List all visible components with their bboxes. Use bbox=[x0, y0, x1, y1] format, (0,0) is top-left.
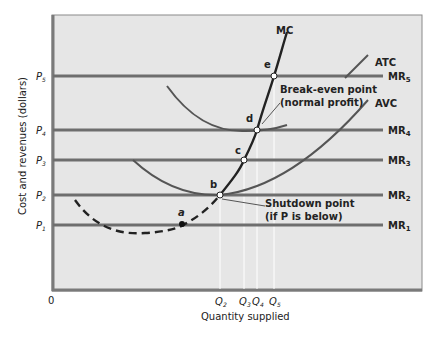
svg-text:Q4: Q4 bbox=[252, 296, 264, 308]
label-b: b bbox=[210, 179, 217, 190]
avc-label: AVC bbox=[375, 98, 397, 109]
point-a bbox=[179, 221, 185, 227]
svg-text:P4: P4 bbox=[36, 125, 46, 137]
break-even-line2: (normal profit) bbox=[280, 97, 363, 108]
supply-curve-chart: a b c d e MC ATC AVC MR5 MR4 MR3 MR2 MR1… bbox=[0, 0, 441, 338]
svg-text:Q5: Q5 bbox=[269, 296, 281, 308]
svg-text:P2: P2 bbox=[36, 190, 46, 202]
label-e: e bbox=[264, 59, 271, 70]
svg-text:P1: P1 bbox=[36, 220, 46, 232]
y-tick-labels: P5 P4 P3 P2 P1 bbox=[36, 71, 46, 232]
point-e bbox=[271, 73, 277, 79]
x-axis-title: Quantity supplied bbox=[201, 311, 290, 322]
label-d: d bbox=[246, 113, 253, 124]
label-a: a bbox=[178, 207, 185, 218]
origin-label: 0 bbox=[48, 295, 54, 306]
svg-text:Q2: Q2 bbox=[215, 296, 227, 308]
y-axis-title: Cost and revenues (dollars) bbox=[17, 77, 28, 215]
x-tick-labels: Q2 Q3 Q4 Q5 bbox=[215, 296, 281, 308]
shutdown-line1: Shutdown point bbox=[265, 198, 355, 209]
break-even-line1: Break-even point bbox=[280, 84, 377, 95]
atc-label: ATC bbox=[375, 57, 396, 68]
label-c: c bbox=[235, 145, 241, 156]
svg-text:Q3: Q3 bbox=[239, 296, 251, 308]
point-b bbox=[217, 192, 223, 198]
shutdown-line2: (if P is below) bbox=[265, 211, 343, 222]
svg-text:P5: P5 bbox=[36, 71, 46, 83]
svg-text:P3: P3 bbox=[36, 155, 46, 167]
point-d bbox=[254, 127, 260, 133]
mc-label: MC bbox=[276, 25, 293, 36]
point-c bbox=[241, 157, 247, 163]
